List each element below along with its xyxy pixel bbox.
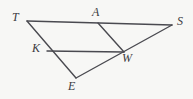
vertex-label-k: K [32, 42, 40, 54]
segment-a-w [98, 23, 124, 52]
segments-group [27, 21, 172, 78]
vertex-label-t: T [12, 11, 19, 23]
vertex-label-s: S [177, 15, 183, 27]
geometry-figure: T A S K W E [0, 0, 193, 99]
vertex-label-w: W [122, 52, 132, 64]
vertex-label-a: A [92, 6, 99, 18]
vertex-label-e: E [68, 80, 75, 92]
segment-k-w [47, 51, 124, 52]
